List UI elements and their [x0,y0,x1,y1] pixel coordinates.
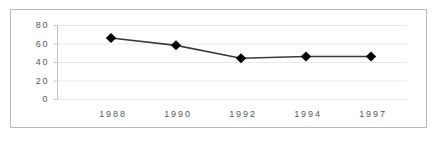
y-axis-tick-label: 60 [15,40,49,49]
axis-ticks [54,26,57,100]
data-point-marker [301,51,311,61]
data-point-marker [366,51,376,61]
data-markers [106,33,376,63]
x-axis-tick-label: 1994 [294,110,322,119]
plot-area: 020406080 19881990199219941997 [11,10,428,129]
data-point-marker [171,40,181,50]
data-point-marker [236,53,246,63]
y-axis-tick-label: 20 [15,77,49,86]
chart-figure: 020406080 19881990199219941997 [0,0,439,143]
x-axis-tick-label: 1992 [229,110,257,119]
y-axis-tick-label: 40 [15,58,49,67]
x-axis-tick-label: 1990 [164,110,192,119]
x-axis-tick-label: 1988 [99,110,127,119]
y-axis-tick-label: 80 [15,21,49,30]
y-axis-tick-label: 0 [15,95,49,104]
data-point-marker [106,33,116,43]
x-axis-tick-label: 1997 [359,110,387,119]
chart-border: 020406080 19881990199219941997 [10,9,427,128]
